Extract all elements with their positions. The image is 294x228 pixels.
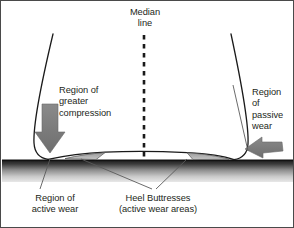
region-of-greater-compression-label: Region of greater compression bbox=[59, 85, 143, 119]
heel-buttresses-label: Heel Buttresses (active wear areas) bbox=[105, 193, 211, 216]
passive-wear-arrow bbox=[245, 137, 283, 158]
figure-frame: Median line Region of greater compressio… bbox=[0, 0, 294, 228]
region-of-active-wear-label: Region of active wear bbox=[14, 193, 96, 216]
region-of-passive-wear-label: Region of passive wear bbox=[252, 87, 292, 132]
median-line-label: Median line bbox=[114, 7, 176, 30]
